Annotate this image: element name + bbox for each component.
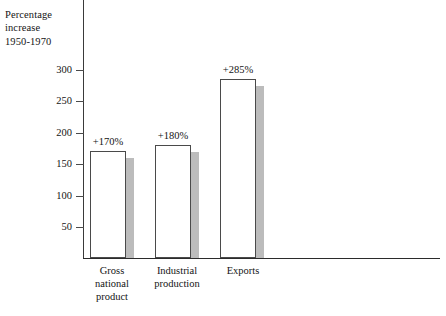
y-tick-label-150: 150 — [42, 159, 72, 170]
chart-title-line-2: increase — [5, 21, 79, 34]
bar-value-exports: +285% — [209, 64, 267, 75]
y-tick-mark-100 — [76, 196, 84, 197]
chart-title: Percentage increase 1950-1970 — [5, 8, 79, 48]
y-tick-label-50-wrap: 50 — [42, 222, 72, 233]
y-tick-mark-150 — [76, 164, 84, 165]
y-tick-label-250-wrap: 250 — [42, 96, 72, 107]
y-tick-label-200: 200 — [42, 128, 72, 139]
y-tick-mark-300 — [76, 70, 84, 71]
x-category-label-industrial-production-line-1: Industrial — [140, 264, 214, 277]
y-tick-mark-250 — [76, 101, 84, 102]
x-axis-line — [83, 258, 440, 259]
y-tick-mark-200 — [76, 133, 84, 134]
bar-chart-figure: Percentage increase 1950-1970 300 250 20… — [0, 0, 446, 316]
y-tick-label-300-wrap: 300 — [42, 65, 72, 76]
y-tick-label-250: 250 — [42, 96, 72, 107]
bar-gross-national-product[interactable] — [90, 151, 126, 258]
bar-value-industrial-production: +180% — [144, 130, 202, 141]
chart-title-line-3: 1950-1970 — [5, 35, 79, 48]
y-tick-label-300: 300 — [42, 65, 72, 76]
x-category-label-gross-national-product: Gross national product — [75, 264, 149, 304]
bar-value-gross-national-product: +170% — [79, 136, 137, 147]
x-category-label-gross-national-product-line-2: national — [75, 277, 149, 290]
x-category-label-industrial-production-line-2: production — [140, 277, 214, 290]
x-category-label-gross-national-product-line-3: product — [75, 290, 149, 303]
bar-exports[interactable] — [220, 79, 256, 258]
y-tick-label-200-wrap: 200 — [42, 128, 72, 139]
y-tick-label-100: 100 — [42, 191, 72, 202]
bar-industrial-production[interactable] — [155, 145, 191, 258]
x-category-label-gross-national-product-line-1: Gross — [75, 264, 149, 277]
x-category-label-exports: Exports — [206, 264, 280, 277]
y-axis-line — [83, 0, 84, 259]
y-tick-mark-50 — [76, 227, 84, 228]
y-tick-label-50: 50 — [42, 222, 72, 233]
x-category-label-exports-line-1: Exports — [206, 264, 280, 277]
x-category-label-industrial-production: Industrial production — [140, 264, 214, 290]
y-tick-label-150-wrap: 150 — [42, 159, 72, 170]
y-tick-label-100-wrap: 100 — [42, 191, 72, 202]
chart-title-line-1: Percentage — [5, 8, 79, 21]
